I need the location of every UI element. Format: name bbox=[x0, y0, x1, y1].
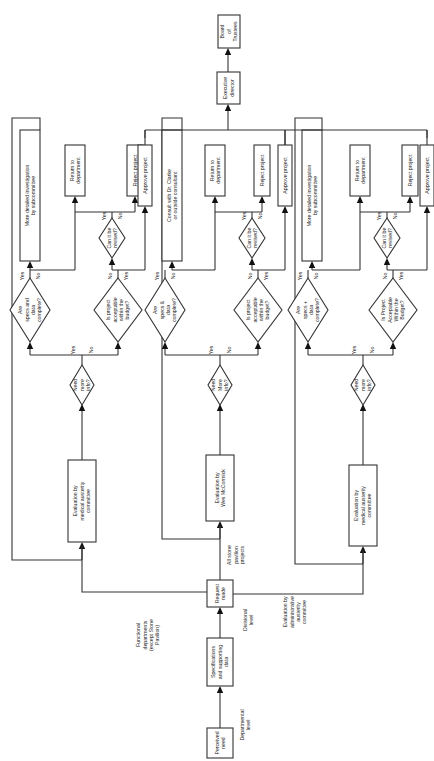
arrowhead-icon bbox=[384, 258, 390, 265]
lane-3-revise-diamond-text: Can it berevised? bbox=[381, 228, 393, 249]
lane-2-investigate-box-text: Consult with Dr. Clarkeor outside consul… bbox=[166, 169, 178, 222]
lane-1-investigate-box-text-line: More detailed investigation bbox=[24, 165, 30, 227]
lane-1-revise-diamond-text-line: Can it be bbox=[106, 228, 112, 249]
lane-1-specs-diamond-text-line: complete? bbox=[36, 298, 42, 322]
arrowhead-icon bbox=[162, 342, 168, 349]
lane-2-specs-diamond-text-line: data bbox=[165, 305, 171, 315]
arrowhead-icon bbox=[390, 342, 396, 349]
lane-1-budget-yes: Yes bbox=[123, 271, 129, 280]
lane-1-budget-diamond-text: Is projectacceptablewithin thebudget? bbox=[105, 297, 130, 322]
lane-2-specs-yes: Yes bbox=[154, 271, 160, 280]
lane-3-specs-diamond-text-line: complete? bbox=[314, 298, 320, 322]
admin-committee-label: Evaluation byadministrativeausteritycomm… bbox=[282, 596, 307, 628]
divisional-level-label-line: Divisional bbox=[242, 609, 248, 631]
arrowhead-icon bbox=[27, 342, 33, 349]
request-made-box-text-line: Request bbox=[214, 583, 220, 603]
functional-departments-label-line: Pavilion) bbox=[154, 625, 160, 645]
lane-3-budget-no: No bbox=[382, 273, 388, 280]
lane-2-budget-diamond-text-line: within the bbox=[258, 299, 264, 321]
stone-pavilion-label: All stonepavilionprojects bbox=[226, 545, 245, 565]
lane-2-reject-box-text: Reject project bbox=[259, 154, 265, 186]
arrowhead-icon bbox=[424, 206, 430, 213]
lane-1-evaluation-box-text-line: committee bbox=[85, 489, 91, 513]
arrowhead-icon bbox=[407, 196, 413, 203]
arrowhead-icon bbox=[212, 196, 218, 203]
lane-3-investigate-box-text-line: by subcommittee bbox=[312, 176, 318, 215]
arrowhead-icon bbox=[305, 342, 311, 349]
lane-1-revise-diamond-text-line: revised? bbox=[112, 228, 118, 248]
executive-director-box-text: Executivedirector bbox=[222, 77, 234, 100]
lane-1-approve-box-text-line: Approve project bbox=[142, 157, 148, 194]
functional-departments-label: Functionaldepartments(except StonePavili… bbox=[135, 619, 160, 651]
branch-functional bbox=[82, 546, 207, 592]
stone-pavilion-label-line: All stone bbox=[226, 545, 232, 565]
admin-committee-label-line: austerity bbox=[295, 602, 301, 622]
lane-2-approve-box-text-line: Approve project bbox=[282, 157, 288, 194]
lane-1-need-info-diamond-text-line: Need bbox=[72, 379, 78, 392]
lane-2-return-box-text-line: Return to bbox=[209, 160, 215, 181]
executive-director-box-text-line: Executive bbox=[222, 77, 228, 100]
lane-2-investigate-box-text-line: or outside consultant bbox=[172, 171, 178, 219]
lane-1-budget-no: No bbox=[107, 273, 113, 280]
divisional-level-label-line: level bbox=[248, 615, 254, 626]
lane-1-need-info-diamond-text: Needmoreinfo? bbox=[72, 379, 91, 392]
lane-3-evaluation-box-text-line: committee bbox=[366, 493, 372, 517]
lane-1-return-box-text-line: department bbox=[75, 157, 81, 184]
arrowhead-icon bbox=[259, 196, 265, 203]
lane-3-revise-no: No bbox=[392, 213, 398, 220]
lane-2-revise-diamond-text-line: revised? bbox=[252, 228, 258, 248]
functional-departments-label-line: Functional bbox=[135, 623, 141, 647]
specifications-box-text-line: data bbox=[223, 657, 229, 667]
lane-2-investigate-box-text-line: Consult with Dr. Clarke bbox=[166, 169, 172, 222]
lane-2-evaluation-box-text-line: Wes McCormick bbox=[220, 469, 226, 507]
departmental-level-label: Departmentallevel bbox=[239, 709, 251, 740]
board-of-trustees-box-text-line: Trustees bbox=[232, 21, 238, 41]
arrowhead-icon bbox=[72, 196, 78, 203]
lane-1-revise-no: No bbox=[117, 213, 123, 220]
lane-3-budget-diamond-text-line: Within the bbox=[393, 298, 399, 321]
lane-1-return-box-text: Return todepartment bbox=[69, 157, 81, 184]
lane-3-need-info-diamond-text-line: info? bbox=[366, 379, 372, 390]
lane-3-evaluation-box-text-line: medical austerity bbox=[360, 486, 366, 525]
lane-2-evaluation-box-text-line: Evaluation by bbox=[214, 472, 220, 504]
arrowhead-icon bbox=[357, 196, 363, 203]
departmental-level-label-line: level bbox=[245, 720, 251, 731]
lane-3-return-box-text-line: Return to bbox=[354, 160, 360, 181]
lane-3-budget-diamond-text: Is ProjectAcceptableWithin theBudget? bbox=[380, 297, 405, 323]
lane-2-approve-box-text: Approve project bbox=[282, 157, 288, 194]
lane-2-specs-diamond-text-line: Are bbox=[152, 306, 158, 314]
lane-1-specs-no: No bbox=[35, 273, 41, 280]
lane-1-reject-box-text-line: Reject project bbox=[132, 154, 138, 186]
lane-1-need-info-no: No bbox=[88, 347, 94, 354]
arrowhead-icon bbox=[169, 261, 175, 268]
arrowhead-icon bbox=[255, 342, 261, 349]
admin-committee-label-line: Evaluation by bbox=[282, 596, 288, 628]
lane-3-need-info-no: No bbox=[369, 347, 375, 354]
lane-3-specs-diamond-text-line: Are bbox=[295, 306, 301, 314]
lane-2-revise-diamond-text: Can it berevised? bbox=[246, 228, 258, 249]
lane-3-need-info-diamond-text-line: Need bbox=[353, 379, 359, 392]
lane-1-need-info-diamond-text-line: info? bbox=[85, 379, 91, 390]
lane-1-return-box-text-line: Return to bbox=[69, 160, 75, 181]
lane-3-budget-diamond-text-line: Budget? bbox=[399, 300, 405, 319]
arrowhead-icon bbox=[309, 261, 315, 268]
executive-director-box-text-line: director bbox=[229, 79, 235, 97]
request-made-box-text-line: made bbox=[220, 587, 226, 600]
lane-1-revise-yes: Yes bbox=[101, 211, 107, 220]
arrowhead-icon bbox=[142, 206, 148, 213]
arrowhead-icon bbox=[217, 607, 223, 614]
lane-3-return-box-text: Return todepartment bbox=[354, 157, 366, 184]
arrowhead-icon bbox=[132, 196, 138, 203]
lane-3-need-info-diamond-text-line: more bbox=[360, 379, 366, 391]
stone-pavilion-label-line: projects bbox=[239, 546, 245, 565]
lane-2-need-info-diamond-text-line: info? bbox=[223, 379, 229, 390]
lane-1-budget-diamond-text-line: within the bbox=[118, 299, 124, 321]
arrowhead-icon bbox=[115, 342, 121, 349]
functional-departments-label-line: departments bbox=[142, 620, 148, 649]
lane-2-budget-yes: Yes bbox=[263, 271, 269, 280]
lane-3-reject-box-text: Reject project bbox=[407, 154, 413, 186]
divisional-level-label: Divisionallevel bbox=[242, 609, 254, 631]
specifications-box-text-line: and supporting bbox=[217, 645, 223, 679]
arrowhead-icon bbox=[217, 686, 223, 693]
lane-2-budget-diamond-text-line: Is project bbox=[245, 299, 251, 321]
